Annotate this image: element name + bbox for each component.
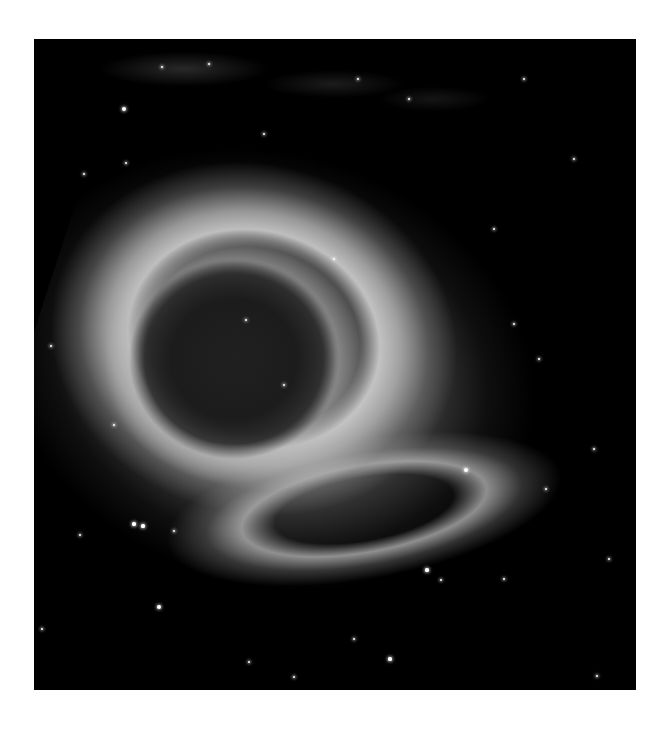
nebula-photo <box>34 39 636 690</box>
star <box>408 98 410 100</box>
star <box>122 107 126 111</box>
star <box>538 358 540 360</box>
star <box>248 661 250 663</box>
star <box>208 63 210 65</box>
star <box>283 384 285 386</box>
star <box>523 78 525 80</box>
star <box>157 605 161 609</box>
star <box>573 158 575 160</box>
star <box>425 568 428 571</box>
star <box>513 323 515 325</box>
star <box>41 628 43 630</box>
star <box>357 78 359 80</box>
star <box>161 66 163 68</box>
upper-filaments <box>34 39 636 690</box>
star <box>503 578 505 580</box>
star <box>50 345 53 348</box>
star <box>596 675 598 677</box>
star-field <box>34 39 636 690</box>
star <box>293 676 295 678</box>
star <box>173 530 175 532</box>
bright-ring <box>34 39 636 690</box>
star <box>113 424 115 426</box>
star <box>608 558 610 560</box>
inner-ring-glow <box>34 39 636 690</box>
star <box>263 133 265 135</box>
star <box>464 468 468 472</box>
star <box>353 638 355 640</box>
star <box>333 258 335 260</box>
star <box>545 488 547 490</box>
star <box>245 319 247 321</box>
star <box>493 228 495 230</box>
star <box>83 173 85 175</box>
star <box>125 162 128 165</box>
outer-halo <box>34 39 636 690</box>
lower-ring-loop <box>34 39 636 690</box>
star <box>132 522 135 525</box>
star <box>388 657 391 660</box>
star <box>79 534 82 537</box>
star <box>593 448 595 450</box>
star <box>440 579 442 581</box>
star <box>141 524 144 527</box>
dark-core <box>34 39 636 690</box>
